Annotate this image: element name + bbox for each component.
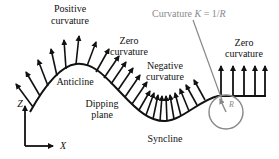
label-axis-x: X xyxy=(59,140,67,151)
label-zero-curvature-right-line1: Zero xyxy=(235,37,254,48)
label-curvature-formula: Curvature K = 1/R xyxy=(152,8,226,19)
fold-curvature-diagram: Positive curvature Zero curvature Negati… xyxy=(0,0,279,159)
anticline-normal-vectors xyxy=(16,36,109,107)
label-radius: R xyxy=(228,100,234,109)
label-syncline: Syncline xyxy=(148,133,184,144)
label-axis-z: Z xyxy=(17,98,23,109)
radius-arrow xyxy=(220,99,226,112)
label-dipping-plane-line1: Dipping xyxy=(86,98,119,109)
label-dipping-plane-line2: plane xyxy=(91,109,113,120)
axis-indicator xyxy=(25,106,53,146)
label-zero-curvature-right-line2: curvature xyxy=(225,48,263,59)
label-zero-curvature-left-line1: Zero xyxy=(120,35,139,46)
dipping-plane-normal-vectors xyxy=(104,56,147,104)
label-negative-curvature-line2: curvature xyxy=(146,71,184,82)
label-anticline: Anticline xyxy=(56,76,94,87)
syncline-normal-vectors xyxy=(139,80,205,121)
curvature-pointer-line xyxy=(193,20,222,100)
flat-normal-vectors xyxy=(221,66,265,96)
label-negative-curvature-line1: Negative xyxy=(147,60,184,71)
label-positive-curvature-line2: curvature xyxy=(51,15,89,26)
label-positive-curvature-line1: Positive xyxy=(54,3,87,14)
label-zero-curvature-left-line2: curvature xyxy=(110,46,148,57)
